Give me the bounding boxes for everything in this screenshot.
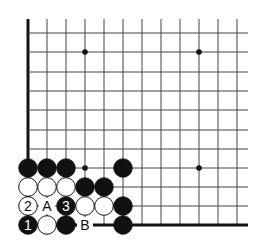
go-board: 231 AB (0, 0, 262, 251)
move-number-label: 3 (62, 198, 70, 214)
star-point-icon (82, 49, 88, 55)
black-stone (76, 178, 95, 197)
black-stone (38, 159, 57, 178)
star-point-icon (196, 165, 202, 171)
black-stone (114, 159, 133, 178)
black-stone (57, 216, 76, 235)
star-point-icon (196, 49, 202, 55)
stones: 231 (19, 159, 133, 235)
white-stone (76, 197, 95, 216)
star-point-icon (82, 165, 88, 171)
point-marker-b: B (80, 217, 89, 233)
white-stone (38, 178, 57, 197)
black-stone (95, 178, 114, 197)
black-stone (114, 197, 133, 216)
black-stone (19, 159, 38, 178)
white-stone (19, 178, 38, 197)
white-stone (95, 197, 114, 216)
white-stone (38, 216, 57, 235)
move-number-label: 1 (24, 217, 32, 233)
white-stone (57, 178, 76, 197)
black-stone (114, 216, 133, 235)
black-stone (57, 159, 76, 178)
point-marker-a: A (42, 198, 52, 214)
move-number-label: 2 (24, 198, 32, 214)
